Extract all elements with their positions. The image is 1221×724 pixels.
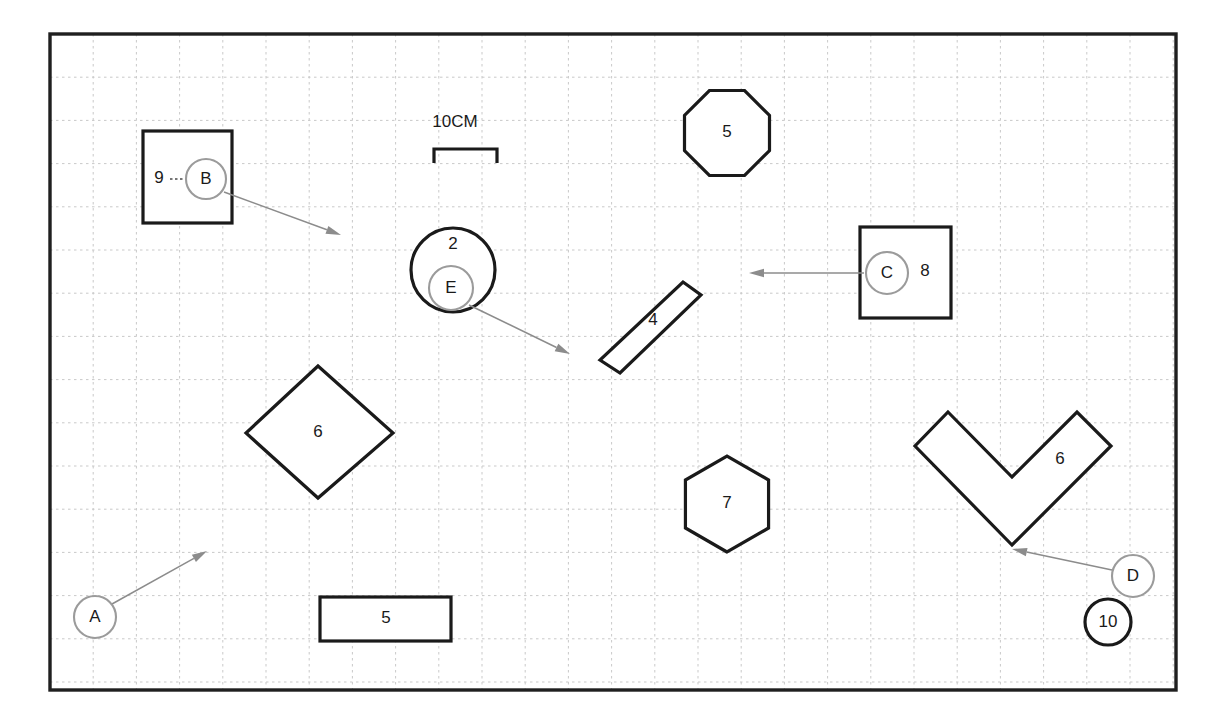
leader-e (469, 305, 570, 354)
markers-layer: ABCDE10 (74, 159, 1154, 645)
marker-label: C (881, 263, 893, 282)
shape-rect-5[interactable]: 5 (320, 597, 451, 641)
shape-label: 9 (154, 168, 163, 187)
technical-diagram-root: 10CM 925846765 ABCDE10 (0, 0, 1221, 724)
shape-label: 6 (313, 422, 322, 441)
diagram-canvas: 10CM 925846765 ABCDE10 (0, 0, 1221, 724)
chevron-outline (915, 412, 1111, 545)
marker-c[interactable]: C (866, 252, 908, 294)
leader-arrowhead-icon (749, 269, 764, 277)
marker-label: A (89, 607, 101, 626)
marker-10[interactable]: 10 (1085, 599, 1131, 645)
marker-b[interactable]: B (186, 159, 226, 199)
scale-bar: 10CM (432, 112, 497, 163)
marker-a[interactable]: A (74, 596, 116, 638)
shape-rotrect-4[interactable]: 4 (600, 282, 701, 373)
leader-shaft (112, 558, 194, 604)
shape-octagon-5[interactable]: 5 (685, 91, 770, 176)
leader-shaft (224, 192, 327, 230)
shapes-layer: 925846765 (143, 91, 1111, 642)
scale-bar-line (434, 149, 497, 163)
scale-bar-label: 10CM (432, 112, 477, 131)
shape-label: 6 (1055, 449, 1064, 468)
leader-lines-layer (112, 192, 1112, 604)
leader-d (1012, 548, 1112, 570)
shape-label: 5 (722, 122, 731, 141)
shape-label: 5 (381, 608, 390, 627)
marker-label: 10 (1099, 612, 1118, 631)
leader-shaft (1027, 552, 1112, 570)
leader-arrowhead-icon (325, 226, 341, 235)
shape-label: 7 (722, 493, 731, 512)
leader-arrowhead-icon (555, 344, 570, 354)
marker-d[interactable]: D (1112, 555, 1154, 597)
marker-label: D (1127, 566, 1139, 585)
leader-arrowhead-icon (1012, 548, 1028, 556)
shape-label: 8 (920, 261, 929, 280)
shape-diamond-6[interactable]: 6 (246, 366, 393, 498)
shape-hexagon-7[interactable]: 7 (685, 456, 768, 552)
shape-label: 4 (648, 310, 657, 329)
marker-label: E (445, 278, 456, 297)
shape-label: 2 (448, 234, 457, 253)
shape-chevron-6[interactable]: 6 (915, 412, 1111, 545)
marker-e[interactable]: E (429, 266, 473, 310)
leader-b (224, 192, 341, 235)
leader-c (749, 269, 864, 277)
marker-label: B (200, 169, 211, 188)
